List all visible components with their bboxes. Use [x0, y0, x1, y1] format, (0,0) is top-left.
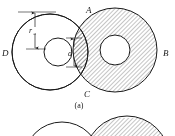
panel-b-partial — [0, 116, 175, 136]
label-point-d: D — [1, 48, 9, 58]
label-point-c: C — [84, 89, 91, 99]
technical-diagram: A B C D r a d (a) — [0, 0, 175, 136]
label-point-a: A — [85, 5, 92, 15]
figure-container: A B C D r a d (a) — [0, 0, 175, 136]
label-point-b: B — [163, 48, 169, 58]
right-annulus-hatch-fill — [0, 0, 175, 136]
caption-panel-a: (a) — [75, 101, 84, 110]
panel-b-right-hatch-fill — [0, 118, 175, 136]
